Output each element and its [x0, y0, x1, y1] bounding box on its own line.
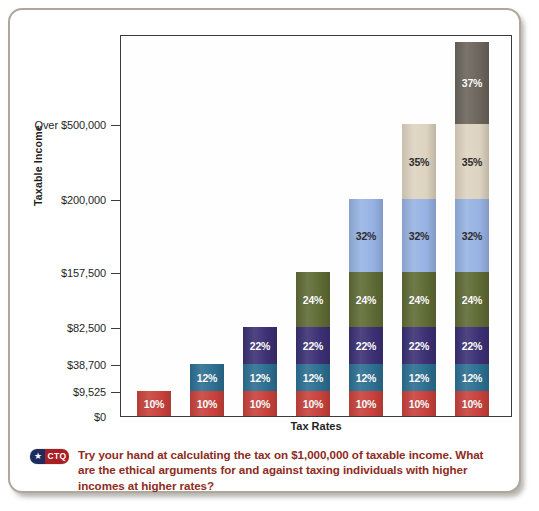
bar-segment[interactable]: 12%: [349, 364, 383, 391]
y-axis-tick: $38,700: [67, 358, 120, 372]
bar-segment[interactable]: 22%: [349, 327, 383, 364]
bar-segment[interactable]: 22%: [296, 327, 330, 364]
bar-segment[interactable]: 10%: [349, 391, 383, 416]
y-axis-tick-label: $9,525: [73, 386, 106, 398]
ctq-badge-navy-half: ★: [30, 449, 45, 464]
bar-segment-label: 10%: [455, 398, 489, 409]
bar-segment-label: 12%: [402, 372, 436, 383]
bar-segment-label: 10%: [349, 398, 383, 409]
bar-segment[interactable]: 24%: [349, 272, 383, 327]
bar-segment-label: 35%: [455, 156, 489, 167]
bar-segment[interactable]: 37%: [455, 42, 489, 124]
y-axis-tick-label: $82,500: [67, 322, 106, 334]
bar-segment-label: 22%: [402, 340, 436, 351]
bar-segment[interactable]: 32%: [349, 199, 383, 272]
bar-segment[interactable]: 35%: [455, 124, 489, 199]
chart-plot-area: 10%10%12%10%12%22%10%12%22%24%10%12%22%2…: [120, 35, 512, 417]
y-axis-tick-mark: [111, 200, 120, 201]
bar-segment[interactable]: 24%: [296, 272, 330, 327]
bar-segment[interactable]: 10%: [296, 391, 330, 416]
bar-segment[interactable]: 10%: [137, 391, 171, 416]
y-axis-tick: $200,000: [61, 193, 120, 207]
bar-segment-label: 22%: [296, 340, 330, 351]
bar-segment[interactable]: 32%: [455, 199, 489, 272]
bar-segment[interactable]: 12%: [243, 364, 277, 391]
bar-column[interactable]: 10%12%22%24%32%: [349, 199, 383, 416]
bar-segment[interactable]: 10%: [243, 391, 277, 416]
bar-segment[interactable]: 12%: [296, 364, 330, 391]
bar-segment-label: 24%: [402, 294, 436, 305]
bar-segment[interactable]: 10%: [190, 391, 224, 416]
bar-segment-label: 10%: [296, 398, 330, 409]
bar-column[interactable]: 10%12%22%24%32%35%37%: [455, 42, 489, 416]
bar-segment[interactable]: 10%: [455, 391, 489, 416]
y-axis-tick: $157,500: [61, 266, 120, 280]
bar-column[interactable]: 10%: [137, 391, 171, 416]
bar-segment-label: 24%: [349, 294, 383, 305]
y-axis-tick: $0: [94, 410, 120, 424]
bar-segment-label: 12%: [349, 372, 383, 383]
ctq-badge-label: CTQ: [47, 452, 66, 461]
bar-segment-label: 32%: [402, 230, 436, 241]
bars-layer: 10%10%12%10%12%22%10%12%22%24%10%12%22%2…: [121, 36, 511, 416]
bar-segment[interactable]: 22%: [455, 327, 489, 364]
ctq-caption-block: ★ CTQ Try your hand at calculating the t…: [30, 447, 500, 493]
bar-segment-label: 35%: [402, 156, 436, 167]
y-axis-tick-mark: [111, 365, 120, 366]
y-axis-tick-mark: [111, 273, 120, 274]
bar-segment[interactable]: 24%: [455, 272, 489, 327]
bar-segment[interactable]: 12%: [190, 364, 224, 391]
figure-frame: Taxable Income $0$9,525$38,700$82,500$15…: [8, 8, 521, 493]
y-axis-tick-label: Over $500,000: [35, 119, 106, 131]
y-axis-tick-label: $38,700: [67, 359, 106, 371]
bar-segment[interactable]: 10%: [402, 391, 436, 416]
bar-segment-label: 12%: [296, 372, 330, 383]
y-axis-tick-label: $0: [94, 411, 106, 423]
bar-segment-label: 12%: [455, 372, 489, 383]
bar-segment[interactable]: 35%: [402, 124, 436, 199]
ctq-badge: ★ CTQ: [30, 449, 69, 464]
bar-segment-label: 12%: [243, 372, 277, 383]
bar-segment[interactable]: 12%: [455, 364, 489, 391]
bar-segment-label: 10%: [137, 398, 171, 409]
y-axis-tick-label: $157,500: [61, 267, 106, 279]
ctq-question-text: Try your hand at calculating the tax on …: [78, 447, 500, 493]
bar-column[interactable]: 10%12%22%24%: [296, 272, 330, 416]
y-axis-tick-mark: [111, 392, 120, 393]
bar-segment-label: 10%: [243, 398, 277, 409]
bar-column[interactable]: 10%12%: [190, 364, 224, 416]
y-axis-tick-mark: [111, 125, 120, 126]
y-axis-tick-label: $200,000: [61, 194, 106, 206]
bar-segment-label: 22%: [455, 340, 489, 351]
bar-segment-label: 32%: [455, 230, 489, 241]
bar-segment[interactable]: 22%: [243, 327, 277, 364]
ctq-badge-red-half: CTQ: [45, 449, 69, 464]
y-axis-tick: $9,525: [73, 385, 120, 399]
bar-segment-label: 22%: [243, 340, 277, 351]
bar-segment-label: 12%: [190, 372, 224, 383]
x-axis-title: Tax Rates: [120, 420, 512, 432]
bar-segment[interactable]: 24%: [402, 272, 436, 327]
y-axis-tick: $82,500: [67, 321, 120, 335]
bar-segment-label: 10%: [190, 398, 224, 409]
bar-column[interactable]: 10%12%22%24%32%35%: [402, 124, 436, 416]
bar-segment-label: 22%: [349, 340, 383, 351]
bar-segment[interactable]: 12%: [402, 364, 436, 391]
y-axis-tick: Over $500,000: [35, 118, 120, 132]
bar-column[interactable]: 10%12%22%: [243, 327, 277, 416]
bar-segment-label: 10%: [402, 398, 436, 409]
bar-segment-label: 37%: [455, 78, 489, 89]
star-icon: ★: [34, 452, 42, 461]
bar-segment[interactable]: 22%: [402, 327, 436, 364]
y-axis-tick-mark: [111, 328, 120, 329]
bar-segment-label: 24%: [296, 294, 330, 305]
bar-segment[interactable]: 32%: [402, 199, 436, 272]
bar-segment-label: 32%: [349, 230, 383, 241]
bar-segment-label: 24%: [455, 294, 489, 305]
y-axis-ticks: $0$9,525$38,700$82,500$157,500$200,000Ov…: [10, 10, 120, 450]
